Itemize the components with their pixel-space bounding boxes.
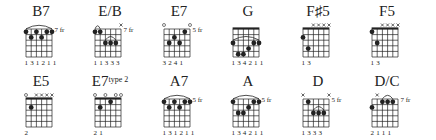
finger-dot bbox=[241, 111, 246, 116]
barre-arc bbox=[95, 26, 100, 29]
finger-dot bbox=[167, 41, 172, 46]
chord-a7: A75 fr1 3 1 2 1 1 bbox=[144, 70, 214, 140]
finger-dot bbox=[301, 35, 306, 40]
chord-e7: E7type 22 1 bbox=[75, 70, 145, 140]
finger-dot bbox=[182, 29, 187, 34]
finger-dot bbox=[236, 52, 241, 57]
fingering-label: 1 3 1 2 1 1 bbox=[163, 129, 195, 137]
fret-position-label: 7 fr bbox=[55, 26, 66, 34]
chord-d-c: D/C7 fr2 1 1 1 bbox=[352, 70, 422, 140]
finger-dot bbox=[385, 99, 390, 104]
muted-string-icon bbox=[35, 94, 38, 97]
fret-position-label: 5 fr bbox=[262, 96, 273, 104]
fret-position-label: 5 fr bbox=[332, 96, 343, 104]
finger-dot bbox=[93, 29, 98, 34]
finger-dot bbox=[311, 111, 316, 116]
finger-dot bbox=[251, 99, 256, 104]
muted-string-icon bbox=[45, 94, 48, 97]
fretboard-grid: 2 1 bbox=[75, 70, 145, 140]
fretboard-grid: 5 fr1 3 4 2 1 1 bbox=[213, 70, 283, 140]
open-string-icon bbox=[114, 94, 117, 97]
finger-dot bbox=[103, 41, 108, 46]
fingering-label: 1 3 4 2 1 1 bbox=[232, 129, 264, 137]
finger-dot bbox=[231, 41, 236, 46]
fingering-label: 2 bbox=[25, 129, 29, 137]
chord-b7: B77 fr1 3 1 2 1 1 bbox=[6, 0, 76, 70]
finger-dot bbox=[182, 99, 187, 104]
finger-dot bbox=[370, 29, 375, 34]
finger-dot bbox=[172, 99, 177, 104]
barre-arc bbox=[233, 37, 259, 41]
finger-dot bbox=[34, 29, 39, 34]
finger-dot bbox=[370, 105, 375, 110]
finger-dot bbox=[306, 99, 311, 104]
finger-dot bbox=[113, 41, 118, 46]
muted-string-icon bbox=[381, 24, 384, 27]
finger-dot bbox=[321, 111, 326, 116]
finger-dot bbox=[172, 35, 177, 40]
open-string-icon bbox=[25, 94, 28, 97]
fretboard-grid: 5 fr1 3 3 3 bbox=[283, 70, 353, 140]
muted-string-icon bbox=[397, 24, 400, 27]
fingering-label: 2 1 1 1 bbox=[371, 129, 392, 137]
chord-e7: E75 fr3 2 4 1 bbox=[144, 0, 214, 70]
nut bbox=[233, 27, 260, 29]
nut bbox=[372, 27, 399, 29]
nut bbox=[95, 97, 122, 99]
fingering-label: 1 3 bbox=[302, 59, 312, 67]
finger-dot bbox=[316, 111, 321, 116]
finger-dot bbox=[29, 35, 34, 40]
fret-position-label: 7 fr bbox=[124, 26, 135, 34]
finger-dot bbox=[177, 41, 182, 46]
nut bbox=[26, 97, 53, 99]
chord-d: D5 fr1 3 3 3 bbox=[283, 70, 353, 140]
barre-arc bbox=[382, 95, 392, 99]
finger-dot bbox=[167, 105, 172, 110]
barre-arc bbox=[164, 95, 190, 99]
fingering-label: 2 1 bbox=[94, 129, 104, 137]
finger-dot bbox=[375, 41, 380, 46]
muted-string-icon bbox=[302, 94, 305, 97]
fingering-label: 1 3 bbox=[371, 59, 381, 67]
finger-dot bbox=[44, 29, 49, 34]
finger-dot bbox=[162, 99, 167, 104]
finger-dot bbox=[39, 35, 44, 40]
chord-f-5: F♯51 3 bbox=[283, 0, 353, 70]
finger-dot bbox=[306, 46, 311, 51]
finger-dot bbox=[380, 99, 385, 104]
fretboard-grid: 7 fr2 1 1 1 bbox=[352, 70, 422, 140]
fretboard-grid: 7 fr1 1 3 3 3 bbox=[75, 0, 145, 70]
barre-arc bbox=[26, 25, 52, 29]
open-string-icon bbox=[104, 94, 107, 97]
finger-dot bbox=[241, 52, 246, 57]
finger-dot bbox=[177, 105, 182, 110]
finger-dot bbox=[29, 105, 34, 110]
muted-string-icon bbox=[328, 94, 331, 97]
muted-string-icon bbox=[40, 94, 43, 97]
chord-chart: B77 fr1 3 1 2 1 1E/B7 fr1 1 3 3 3E75 fr3… bbox=[0, 0, 436, 140]
finger-dot bbox=[231, 99, 236, 104]
chord-a: A5 fr1 3 4 2 1 1 bbox=[213, 70, 283, 140]
fingering-label: 3 2 4 1 bbox=[163, 59, 184, 67]
finger-dot bbox=[24, 29, 29, 34]
muted-string-icon bbox=[386, 24, 389, 27]
open-string-icon bbox=[189, 24, 192, 27]
fret-position-label: 5 fr bbox=[193, 26, 204, 34]
finger-dot bbox=[98, 105, 103, 110]
muted-string-icon bbox=[51, 94, 54, 97]
muted-string-icon bbox=[376, 94, 379, 97]
muted-string-icon bbox=[391, 24, 394, 27]
fingering-label: 1 3 1 2 1 1 bbox=[25, 59, 57, 67]
chord-f5: F51 3 bbox=[352, 0, 422, 70]
muted-string-icon bbox=[328, 24, 331, 27]
finger-dot bbox=[246, 46, 251, 51]
nut bbox=[303, 27, 330, 29]
finger-dot bbox=[246, 105, 251, 110]
finger-dot bbox=[108, 41, 113, 46]
fretboard-grid: 1 3 bbox=[283, 0, 353, 70]
finger-dot bbox=[257, 41, 262, 46]
finger-dot bbox=[390, 99, 395, 104]
muted-string-icon bbox=[317, 24, 320, 27]
muted-string-icon bbox=[322, 24, 325, 27]
fretboard-grid: 5 fr3 2 4 1 bbox=[144, 0, 214, 70]
